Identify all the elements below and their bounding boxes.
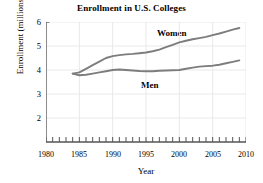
plot-area bbox=[46, 22, 246, 142]
y-axis-label: Enrollment (millions) bbox=[15, 0, 25, 95]
data-series bbox=[73, 28, 240, 75]
y-tick-label-6: 6 bbox=[27, 17, 41, 27]
gridlines bbox=[46, 22, 246, 142]
x-tick-label-1995: 1995 bbox=[131, 150, 161, 159]
x-axis-label: Year bbox=[46, 166, 246, 176]
chart-figure: Enrollment in U.S. Colleges Enrollment (… bbox=[0, 0, 263, 183]
x-tick-label-1990: 1990 bbox=[98, 150, 128, 159]
x-tick-label-2000: 2000 bbox=[164, 150, 194, 159]
series-line-women bbox=[73, 28, 240, 74]
y-tick-label-2: 2 bbox=[27, 113, 41, 123]
x-tick-label-1980: 1980 bbox=[31, 150, 61, 159]
y-tick-label-3: 3 bbox=[27, 89, 41, 99]
x-tick-label-1985: 1985 bbox=[64, 150, 94, 159]
chart-title: Enrollment in U.S. Colleges bbox=[0, 3, 263, 13]
plot-svg bbox=[46, 22, 246, 147]
x-tick-label-2005: 2005 bbox=[198, 150, 228, 159]
x-tick-label-2010: 2010 bbox=[231, 150, 261, 159]
y-tick-label-4: 4 bbox=[27, 65, 41, 75]
y-tick-label-5: 5 bbox=[27, 41, 41, 51]
